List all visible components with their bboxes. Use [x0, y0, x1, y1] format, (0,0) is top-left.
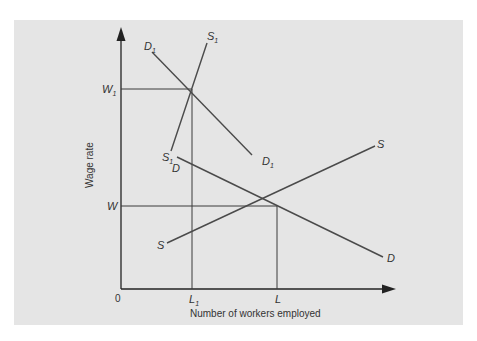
label-d1-bottom: D1 — [262, 155, 274, 169]
d-curve — [177, 157, 383, 257]
x-axis-label: Number of workers employed — [190, 308, 321, 319]
y-axis-arrow-icon — [117, 27, 126, 41]
label-w1: W1 — [102, 83, 116, 97]
label-d-top: D — [172, 162, 180, 174]
labor-market-diagram: D1 S1 D1 S1 D D S S W1 W L1 L 0 Number o… — [0, 0, 477, 341]
s-curve — [167, 146, 375, 243]
x-axis-arrow-icon — [382, 285, 396, 294]
label-s-top: S — [377, 138, 385, 150]
label-w: W — [107, 200, 119, 212]
label-l: L — [275, 293, 281, 305]
s1-curve — [171, 43, 207, 151]
label-l1: L1 — [189, 293, 199, 307]
y-axis-label: Wage rate — [84, 142, 95, 188]
curves — [152, 43, 383, 257]
label-d1-top: D1 — [144, 40, 156, 54]
label-s1-top: S1 — [207, 30, 218, 44]
curve-labels: D1 S1 D1 S1 D D S S — [144, 30, 395, 264]
origin-label: 0 — [115, 293, 121, 304]
axes — [117, 27, 397, 294]
label-d-bottom: D — [387, 252, 395, 264]
guide-lines — [121, 89, 277, 289]
d1-curve — [152, 52, 252, 155]
label-s-bottom: S — [157, 239, 165, 251]
